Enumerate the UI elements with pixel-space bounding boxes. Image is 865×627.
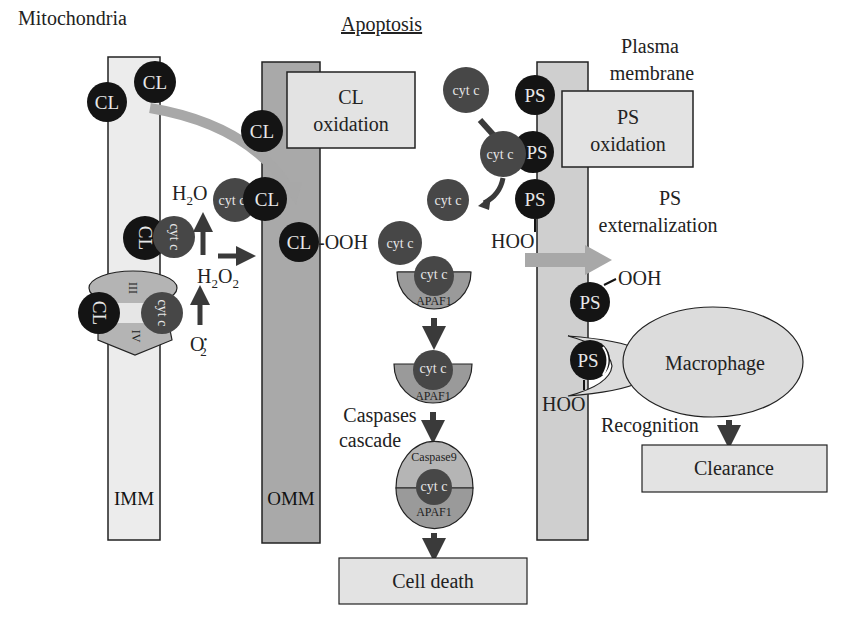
apaf1-complex: cyt c APAF1	[397, 256, 471, 309]
svg-text:cyt c: cyt c	[167, 224, 182, 251]
svg-text:cyt c: cyt c	[219, 193, 246, 208]
apoptosis-diagram: Mitochondria Apoptosis Plasma membrane I…	[0, 0, 865, 627]
svg-text:cyt c: cyt c	[453, 83, 480, 98]
cl-molecule: CL	[78, 292, 120, 334]
cl-molecule: CL	[279, 222, 319, 262]
cl-ooh-label: -OOH	[318, 231, 368, 253]
ps-externalization-line2: externalization	[599, 214, 718, 236]
apaf1-complex: cyt c APAF1	[394, 350, 472, 403]
plasma-label-line1: Plasma	[621, 35, 679, 57]
svg-text:PS: PS	[526, 142, 547, 163]
cell-death-label: Cell death	[392, 570, 474, 592]
ps-molecule: PS	[515, 179, 555, 219]
ps-molecule: PS	[570, 282, 610, 322]
hoo-label-2: HOO	[542, 393, 585, 415]
plasma-label-line2: membrane	[610, 62, 695, 84]
ooh-bond	[604, 279, 616, 285]
cl-molecule: CL	[241, 110, 283, 152]
caspases-label-line2: cascade	[339, 429, 401, 451]
svg-text:CL: CL	[143, 72, 167, 93]
imm-label: IMM	[114, 488, 154, 509]
svg-text:PS: PS	[524, 189, 545, 210]
cl-oxidation-box	[287, 72, 415, 148]
cyt-c-molecule: cyt c	[443, 67, 489, 113]
svg-text:PS: PS	[577, 350, 598, 371]
h2o-label: H2O	[172, 182, 207, 208]
superoxide-label: O•2	[190, 333, 207, 359]
apoptosis-title: Apoptosis	[341, 13, 422, 36]
svg-text:Caspase9: Caspase9	[411, 450, 456, 464]
cl-molecule: CL	[87, 82, 127, 122]
svg-text:cyt c: cyt c	[155, 300, 170, 327]
ps-externalization-line1: PS	[659, 187, 681, 209]
cl-molecule: CL	[134, 61, 176, 103]
svg-text:cyt c: cyt c	[435, 193, 462, 208]
ps-oxidation-line2: oxidation	[590, 133, 666, 155]
svg-text:cyt c: cyt c	[421, 267, 448, 282]
mitochondria-label: Mitochondria	[18, 7, 127, 29]
cl-oxidation-line2: oxidation	[313, 113, 389, 135]
ps-molecule: PS	[515, 75, 555, 115]
cyt-c-molecule: cyt c	[141, 292, 183, 334]
omm-label: OMM	[267, 488, 315, 509]
h2o2-label: H2O2	[197, 265, 239, 291]
svg-text:CL: CL	[135, 226, 156, 250]
cyt-c-molecule: cyt c	[427, 179, 469, 221]
clearance-label: Clearance	[694, 457, 774, 479]
cl-oxidation-line1: CL	[338, 86, 364, 108]
svg-text:APAF1: APAF1	[416, 505, 452, 519]
svg-text:CL: CL	[255, 189, 279, 210]
svg-text:cyt c: cyt c	[420, 361, 447, 376]
recognition-label: Recognition	[601, 414, 699, 437]
ooh-label: OOH	[618, 267, 661, 289]
caspase9-apaf1-complex: cyt c Caspase9 APAF1	[396, 441, 473, 528]
svg-text:IV: IV	[129, 330, 143, 343]
cl-molecule: CL	[243, 177, 287, 221]
svg-text:APAF1: APAF1	[415, 389, 451, 403]
ps-molecule: PS	[570, 340, 610, 380]
externalization-arrow-shaft	[525, 253, 587, 267]
svg-text:PS: PS	[579, 292, 600, 313]
externalization-arrowhead	[585, 245, 612, 275]
svg-text:cyt c: cyt c	[387, 236, 414, 251]
ps-oxidation-line1: PS	[617, 106, 639, 128]
cyt-c-release-arrowhead	[478, 196, 491, 210]
caspases-label-line1: Caspases	[343, 404, 417, 427]
svg-text:cyt c: cyt c	[421, 479, 448, 494]
svg-text:CL: CL	[95, 92, 119, 113]
svg-text:CL: CL	[89, 301, 110, 325]
svg-text:CL: CL	[287, 232, 311, 253]
cyt-c-molecule: cyt c	[153, 216, 195, 258]
svg-text:CL: CL	[250, 121, 274, 142]
svg-text:cyt c: cyt c	[487, 147, 514, 162]
svg-text:APAF1: APAF1	[416, 294, 452, 308]
cyt-c-molecule: cyt c	[480, 131, 526, 177]
svg-text:III: III	[126, 282, 140, 294]
ps-oxidation-box	[562, 91, 693, 167]
cyt-c-molecule: cyt c	[378, 221, 422, 265]
svg-text:PS: PS	[524, 85, 545, 106]
hoo-label: HOO	[491, 230, 534, 252]
macrophage-label: Macrophage	[665, 352, 765, 375]
